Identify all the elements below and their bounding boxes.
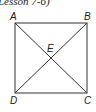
vertex-label-c: C xyxy=(84,96,91,106)
vertex-label-d: D xyxy=(10,96,17,106)
intersection-label-e: E xyxy=(47,44,54,54)
vertex-label-a: A xyxy=(10,12,17,22)
vertex-label-b: B xyxy=(84,12,91,22)
